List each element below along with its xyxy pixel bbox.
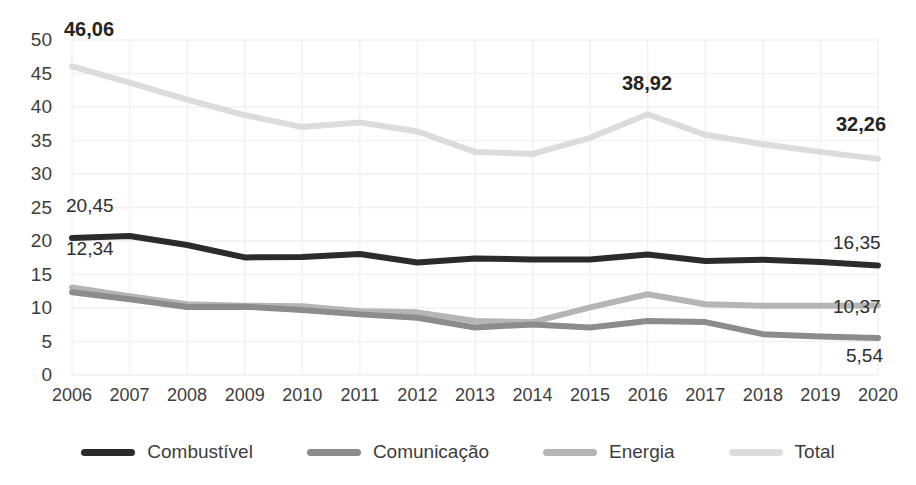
series-line (72, 66, 878, 158)
data-label: 5,54 (846, 345, 883, 367)
y-tick-label: 15 (31, 264, 52, 286)
x-tick-label: 2017 (685, 385, 725, 406)
data-label: 12,34 (66, 238, 114, 260)
legend-swatch-icon (729, 449, 783, 456)
data-label: 38,92 (622, 72, 672, 95)
legend-label: Total (795, 441, 835, 463)
y-tick-label: 45 (31, 63, 52, 85)
x-tick-label: 2012 (397, 385, 437, 406)
data-label: 16,35 (833, 232, 881, 254)
y-tick-label: 50 (31, 29, 52, 51)
x-tick-label: 2015 (570, 385, 610, 406)
x-tick-label: 2014 (513, 385, 553, 406)
x-tick-label: 2011 (341, 385, 380, 406)
y-tick-label: 25 (31, 197, 52, 219)
x-tick-label: 2010 (282, 385, 322, 406)
x-axis: 2006200720082009201020112012201320142015… (72, 385, 878, 415)
x-tick-label: 2018 (743, 385, 783, 406)
x-tick-label: 2016 (628, 385, 668, 406)
legend-label: Comunicação (373, 441, 489, 463)
legend-swatch-icon (543, 449, 597, 456)
y-tick-label: 35 (31, 130, 52, 152)
series-lines (72, 40, 878, 375)
y-tick-label: 40 (31, 96, 52, 118)
x-tick-label: 2007 (110, 385, 150, 406)
y-tick-label: 30 (31, 163, 52, 185)
data-label: 32,26 (836, 113, 886, 136)
x-tick-label: 2006 (52, 385, 92, 406)
plot-area (72, 40, 878, 375)
y-tick-label: 10 (31, 297, 52, 319)
chart-legend: CombustívelComunicaçãoEnergiaTotal (0, 432, 916, 472)
legend-item[interactable]: Energia (543, 441, 675, 463)
legend-label: Combustível (147, 441, 253, 463)
series-line (72, 292, 878, 338)
x-tick-label: 2020 (858, 385, 898, 406)
line-chart: 50454035302520151050 2006200720082009201… (0, 0, 916, 485)
legend-label: Energia (609, 441, 675, 463)
x-tick-label: 2009 (225, 385, 265, 406)
y-tick-label: 20 (31, 230, 52, 252)
x-tick-label: 2008 (167, 385, 207, 406)
x-tick-label: 2019 (800, 385, 840, 406)
y-axis: 50454035302520151050 (0, 40, 52, 375)
y-tick-label: 0 (41, 364, 52, 386)
legend-item[interactable]: Comunicação (307, 441, 489, 463)
legend-item[interactable]: Total (729, 441, 835, 463)
data-label: 20,45 (66, 195, 114, 217)
y-tick-label: 5 (41, 331, 52, 353)
x-tick-label: 2013 (455, 385, 495, 406)
legend-swatch-icon (81, 449, 135, 456)
data-label: 46,06 (64, 18, 114, 41)
data-label: 10,37 (833, 296, 881, 318)
legend-item[interactable]: Combustível (81, 441, 253, 463)
series-line (72, 236, 878, 265)
legend-swatch-icon (307, 449, 361, 456)
